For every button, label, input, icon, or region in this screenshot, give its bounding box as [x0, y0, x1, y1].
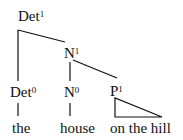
node-label: Det: [10, 84, 32, 100]
node-label: Det: [18, 8, 40, 24]
bar-level: 0: [32, 85, 37, 95]
node-n1: N1: [64, 45, 79, 61]
node-det0: Det0: [10, 84, 36, 100]
bar-level: 0: [75, 85, 80, 95]
node-p1: P1: [110, 83, 123, 99]
pp-triangle: [115, 98, 162, 117]
branch-nbar-to-pbar: [73, 60, 117, 78]
bar-level: 1: [40, 9, 45, 19]
node-n0: N0: [64, 84, 79, 100]
bar-level: 1: [75, 46, 80, 56]
node-det1: Det1: [18, 8, 44, 24]
branch-root-to-nbar: [18, 30, 65, 42]
word-on-the-hill: on the hill: [110, 120, 171, 136]
word-house: house: [60, 120, 95, 136]
node-label: N: [64, 45, 75, 61]
word-the: the: [12, 120, 30, 136]
node-label: N: [64, 84, 75, 100]
bar-level: 1: [118, 84, 123, 94]
